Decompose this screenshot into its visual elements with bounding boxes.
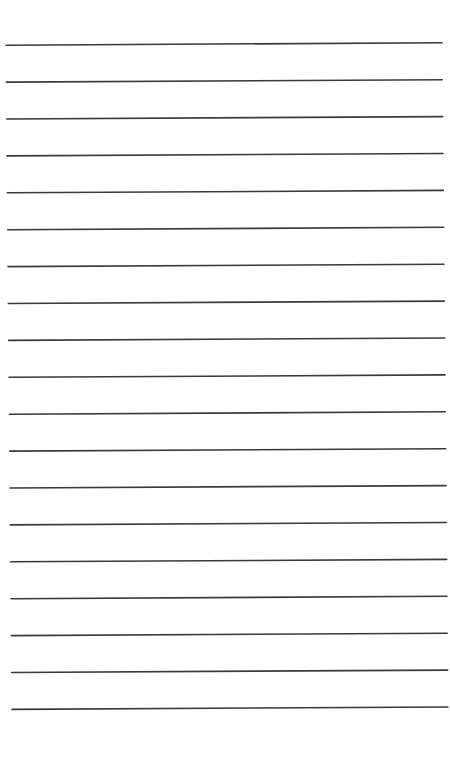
ruled-line [7, 190, 443, 192]
ruled-line [6, 80, 442, 82]
lined-paper-sheet [0, 0, 450, 764]
ruled-line [8, 227, 444, 229]
ruled-line [9, 338, 445, 340]
ruled-line [9, 375, 445, 377]
ruled-line [12, 670, 448, 672]
ruled-line [11, 596, 447, 598]
ruled-line [7, 154, 443, 156]
ruled-line [11, 633, 447, 635]
ruled-line [10, 486, 446, 488]
ruled-line [8, 264, 444, 266]
ruled-line [12, 707, 448, 709]
ruled-line [11, 559, 447, 561]
ruled-line [7, 117, 443, 119]
ruled-line [8, 301, 444, 303]
ruled-line [10, 523, 446, 525]
ruled-line [6, 43, 442, 45]
ruled-line [9, 412, 445, 414]
ruled-line [10, 449, 446, 451]
ruled-lines [0, 0, 450, 764]
